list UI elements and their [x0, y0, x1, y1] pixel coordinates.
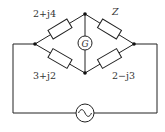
label-top-right: Z [111, 6, 119, 17]
node-bottom [83, 71, 87, 75]
galvanometer: G [78, 36, 92, 50]
label-bottom-right: 2−j3 [112, 70, 135, 81]
impedance-top-right [97, 19, 121, 39]
impedance-bottom-left [48, 49, 72, 69]
impedance-top-left [48, 19, 72, 39]
bridge-circuit: G 2+j4 Z 3+j2 2−j3 [0, 0, 165, 132]
label-top-left: 2+j4 [33, 8, 56, 19]
node-top [83, 12, 87, 16]
galvanometer-label: G [81, 39, 88, 49]
node-left [33, 42, 37, 46]
label-bottom-left: 3+j2 [33, 70, 56, 81]
impedance-bottom-right [97, 49, 121, 69]
ac-source [76, 104, 94, 122]
node-right [132, 42, 136, 46]
